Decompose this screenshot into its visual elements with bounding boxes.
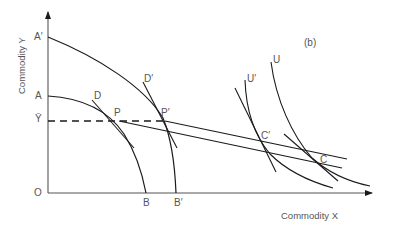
label-b: B (143, 198, 150, 208)
tangent-d-line (92, 100, 134, 148)
indifference-curve-u-prime (245, 80, 333, 188)
label-u: U (273, 55, 280, 65)
label-d-prime: D′ (144, 74, 153, 84)
ppf-a-prime-b-prime-curve (48, 37, 176, 193)
panel-label: (b) (304, 38, 316, 48)
trade-diagram (0, 0, 395, 232)
tangent-d-prime-line (143, 82, 177, 148)
label-d: D (94, 91, 101, 101)
y-axis-title: Commodity Y (17, 37, 27, 94)
label-c: C (320, 155, 327, 165)
x-axis-title: Commodity X (281, 211, 338, 221)
label-p-prime: P′ (161, 108, 170, 118)
label-u-prime: U′ (247, 74, 256, 84)
label-a: A (35, 91, 42, 101)
label-p: P (114, 108, 121, 118)
label-b-prime: B′ (174, 198, 183, 208)
label-c-prime: C′ (261, 131, 270, 141)
trade-line-lower (119, 121, 342, 168)
label-y-bar: Ȳ (35, 114, 42, 124)
origin-label: O (34, 188, 42, 198)
label-a-prime: A′ (34, 32, 43, 42)
